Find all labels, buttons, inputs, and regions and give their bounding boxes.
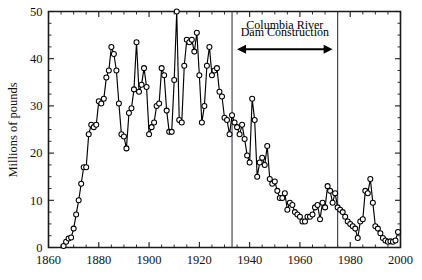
data-point	[79, 181, 84, 186]
data-point	[230, 113, 235, 118]
data-point	[214, 66, 219, 71]
chart-figure: 01020304050 1860188019001920194019601980…	[0, 0, 422, 280]
data-point	[182, 63, 187, 68]
annotation-text-line-2: Dam Construction	[241, 25, 329, 39]
data-point	[169, 129, 174, 134]
data-point	[174, 9, 179, 14]
data-point	[282, 191, 287, 196]
data-point	[375, 226, 380, 231]
data-point	[139, 82, 144, 87]
data-point	[152, 120, 157, 125]
data-point	[318, 217, 323, 222]
data-point	[109, 44, 114, 49]
data-point	[255, 174, 260, 179]
data-point	[355, 236, 360, 241]
x-tick-label: 1980	[338, 253, 363, 267]
dam-construction-arrow	[237, 45, 333, 54]
data-point	[353, 226, 358, 231]
data-point	[343, 214, 348, 219]
data-point	[252, 118, 257, 123]
data-point	[74, 212, 79, 217]
data-point	[94, 122, 99, 127]
data-point	[368, 177, 373, 182]
data-point	[315, 203, 320, 208]
data-point	[179, 120, 184, 125]
data-point	[280, 195, 285, 200]
data-point	[106, 68, 111, 73]
data-point	[84, 165, 89, 170]
data-point	[114, 68, 119, 73]
y-tick-label: 10	[30, 194, 43, 208]
data-point	[257, 160, 262, 165]
data-point	[240, 122, 245, 127]
data-point	[333, 191, 338, 196]
y-tick-label: 30	[30, 99, 43, 113]
data-point	[225, 118, 230, 123]
y-axis-title: Millions of pounds	[6, 82, 20, 177]
data-point	[157, 101, 162, 106]
data-point	[199, 120, 204, 125]
data-point	[235, 125, 240, 130]
data-point	[209, 73, 214, 78]
y-axis-ticks	[49, 12, 401, 248]
data-point	[71, 226, 76, 231]
data-series-group	[61, 9, 400, 249]
data-point	[189, 37, 194, 42]
y-tick-label: 20	[30, 146, 43, 160]
data-point	[134, 40, 139, 45]
data-point	[137, 89, 142, 94]
data-point	[194, 30, 199, 35]
data-point	[378, 231, 383, 236]
data-point	[164, 108, 169, 113]
y-axis-tick-labels: 01020304050	[30, 5, 43, 255]
data-point	[111, 51, 116, 56]
cut-off-caption	[0, 272, 422, 280]
data-point	[129, 106, 134, 111]
data-point	[121, 134, 126, 139]
data-point	[297, 214, 302, 219]
data-point	[328, 188, 333, 193]
data-point	[149, 125, 154, 130]
data-point	[219, 94, 224, 99]
data-point	[192, 49, 197, 54]
plot-frame	[49, 12, 401, 248]
data-point	[275, 188, 280, 193]
data-point	[76, 198, 81, 203]
data-point	[393, 238, 398, 243]
y-tick-label: 50	[30, 5, 43, 19]
data-point	[147, 132, 152, 137]
data-point	[302, 219, 307, 224]
x-tick-label: 1900	[137, 253, 162, 267]
data-point	[262, 162, 267, 167]
data-point	[237, 132, 242, 137]
data-point	[272, 179, 277, 184]
data-point	[395, 229, 400, 234]
data-point	[202, 103, 207, 108]
data-point	[131, 87, 136, 92]
data-point	[69, 235, 74, 240]
data-point	[245, 153, 250, 158]
x-axis-ticks	[49, 12, 401, 248]
data-point	[116, 101, 121, 106]
data-point	[365, 191, 370, 196]
data-point	[142, 66, 147, 71]
data-point	[197, 73, 202, 78]
data-point	[172, 77, 177, 82]
data-point	[162, 73, 167, 78]
data-point	[232, 120, 237, 125]
data-point	[323, 205, 328, 210]
data-point	[265, 144, 270, 149]
data-point	[101, 96, 106, 101]
x-tick-label: 1960	[287, 253, 312, 267]
data-point	[144, 85, 149, 90]
data-point	[86, 132, 91, 137]
data-point	[340, 210, 345, 215]
x-tick-label: 1880	[86, 253, 111, 267]
data-point	[104, 75, 109, 80]
x-tick-label: 1920	[187, 253, 212, 267]
data-point	[126, 110, 131, 115]
data-point	[360, 217, 365, 222]
data-point	[260, 155, 265, 160]
x-tick-label: 1940	[237, 253, 262, 267]
data-point	[124, 146, 129, 151]
